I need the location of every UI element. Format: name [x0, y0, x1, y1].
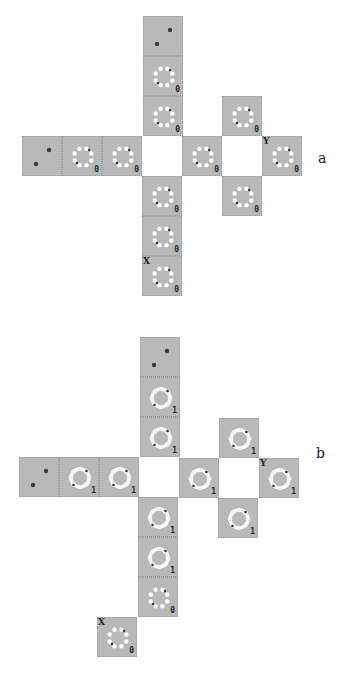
grid-cell-blank	[222, 136, 262, 176]
grid-cell-ring-dots: 0	[142, 176, 182, 216]
grid-cell-ring-dots: 0	[143, 56, 183, 96]
two-dots-icon	[20, 458, 60, 498]
panel-label: b	[316, 445, 325, 461]
cell-count: 1	[250, 528, 255, 536]
cell-count: 0	[294, 166, 299, 174]
grid-cell-ring-solid: 1	[59, 457, 99, 497]
cell-count: 0	[170, 607, 175, 615]
grid-cell-ring-dots: 0	[222, 176, 262, 216]
grid-cell-two-dots	[143, 16, 183, 56]
cell-count: 1	[170, 567, 175, 575]
grid-cell-two-dots	[140, 337, 180, 377]
cell-count: 1	[172, 407, 177, 415]
cell-count: 1	[211, 488, 216, 496]
cell-count: 1	[291, 488, 296, 496]
cell-marker-y: Y	[263, 137, 269, 146]
cell-count: 0	[129, 647, 134, 655]
grid-cell-ring-solid: 1	[179, 458, 219, 498]
panel-label: a	[318, 150, 326, 166]
cell-count: 0	[174, 286, 179, 294]
cell-count: 1	[170, 527, 175, 535]
cell-count: 0	[174, 206, 179, 214]
grid-cell-ring-dots: 0	[62, 136, 102, 176]
grid-cell-ring-dots: 0	[138, 577, 178, 617]
cell-marker-y: Y	[260, 459, 266, 468]
cell-count: 1	[172, 447, 177, 455]
grid-cell-ring-solid: 1	[219, 418, 259, 458]
cell-marker-x: X	[143, 257, 150, 266]
cell-count: 0	[175, 126, 180, 134]
grid-cell-ring-solid: 1	[218, 498, 258, 538]
grid-cell-blank	[142, 136, 182, 176]
grid-cell-ring-dots: 0	[143, 96, 183, 136]
cell-count: 1	[91, 487, 96, 495]
grid-cell-ring-dots: 0	[182, 136, 222, 176]
grid-cell-ring-solid: 1	[99, 457, 139, 497]
grid-cell-blank	[139, 457, 179, 497]
grid-cell-ring-dots: 0	[102, 136, 142, 176]
cell-count: 1	[131, 487, 136, 495]
cell-count: 1	[251, 448, 256, 456]
grid-cell-ring-solid: 1	[140, 377, 180, 417]
cell-count: 0	[174, 246, 179, 254]
grid-cell-ring-solid: 1	[138, 537, 178, 577]
cell-count: 0	[175, 86, 180, 94]
cell-count: 0	[254, 126, 259, 134]
grid-cell-blank	[219, 458, 259, 498]
grid-cell-ring-dots: 0	[142, 216, 182, 256]
grid-cell-ring-solid: 1	[138, 497, 178, 537]
grid-cell-ring-solid: 1	[140, 417, 180, 457]
two-dots-icon	[23, 137, 63, 177]
cell-count: 0	[134, 166, 139, 174]
cell-count: 0	[254, 206, 259, 214]
cell-count: 0	[214, 166, 219, 174]
grid-cell-two-dots	[19, 457, 59, 497]
grid-cell-two-dots	[22, 136, 62, 176]
cell-count: 0	[94, 166, 99, 174]
two-dots-icon	[144, 17, 184, 57]
cell-marker-x: X	[98, 618, 105, 627]
two-dots-icon	[141, 338, 181, 378]
grid-cell-ring-dots: 0	[222, 96, 262, 136]
